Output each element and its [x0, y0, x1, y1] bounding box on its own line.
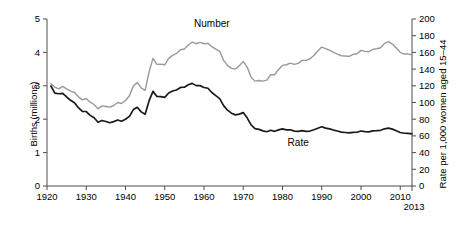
y-axis-right-tick-label: 0: [419, 180, 424, 191]
series-annotation-rate: Rate: [288, 137, 310, 148]
series-annotation-number: Number: [194, 18, 230, 29]
y-axis-right-tick-label: 60: [419, 130, 430, 141]
y-axis-left-tick-label: 1: [35, 147, 40, 158]
x-axis-tick-label: 1920: [36, 191, 57, 202]
y-axis-right-tick-label: 120: [419, 80, 435, 91]
y-axis-left-tick-label: 5: [35, 13, 40, 24]
x-axis-tick-label: 1970: [233, 191, 254, 202]
y-axis-left-tick-label: 3: [35, 80, 40, 91]
y-axis-right-tick-label: 80: [419, 114, 430, 125]
x-axis-end-label: 2013: [403, 201, 424, 212]
y-axis-right-tick-label: 160: [419, 47, 435, 58]
x-axis-tick-label: 1930: [76, 191, 97, 202]
y-axis-right-tick-label: 200: [419, 13, 435, 24]
data-series-group: [51, 42, 412, 134]
x-axis-tick-label: 2000: [350, 191, 371, 202]
axis-lines: [47, 19, 412, 186]
x-axis-tick-label: 1960: [193, 191, 214, 202]
series-annotations: NumberRate: [194, 18, 309, 148]
y-axis-left-tick-label: 2: [35, 114, 40, 125]
x-axis-tick-label: 1940: [115, 191, 136, 202]
birth-number-and-rate-chart: Births (millions) Rate per 1,000 women a…: [0, 0, 461, 228]
y-axis-right-tick-label: 40: [419, 147, 430, 158]
x-axis-tick-label: 1980: [272, 191, 293, 202]
x-axis-tick-label: 1950: [154, 191, 175, 202]
x-axis-ticks: 1920193019401950196019701980199020002010…: [36, 186, 424, 212]
chart-plot-area: 012345 020406080100120140160180200 19201…: [0, 0, 461, 228]
y-axis-right-tick-label: 100: [419, 97, 435, 108]
y-axis-left-tick-label: 4: [35, 47, 40, 58]
series-line-number: [51, 42, 412, 109]
y-axis-left-tick-label: 0: [35, 180, 40, 191]
x-axis-tick-label: 1990: [311, 191, 332, 202]
y-axis-right-ticks: 020406080100120140160180200: [412, 13, 435, 191]
y-axis-left-ticks: 012345: [35, 13, 47, 191]
y-axis-right-tick-label: 140: [419, 64, 435, 75]
series-line-rate: [51, 83, 412, 133]
y-axis-right-tick-label: 20: [419, 164, 430, 175]
y-axis-right-tick-label: 180: [419, 30, 435, 41]
